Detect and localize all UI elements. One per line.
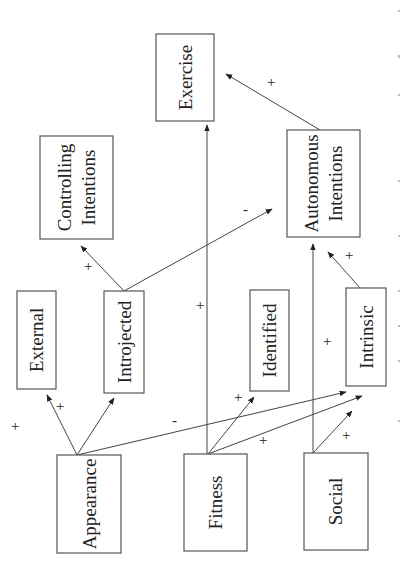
svg-text:Fitness: Fitness	[205, 476, 226, 530]
sign-appearance-external: +	[11, 418, 19, 434]
node-introjected: Introjected	[104, 291, 144, 393]
sign-social-autonomous: +	[323, 333, 331, 349]
sign-introjected-autonomous: -	[243, 201, 248, 217]
sign-appearance-intrinsic: -	[172, 412, 177, 428]
edge-introjected-to-autonomous	[124, 209, 272, 291]
sign-social-intrinsic: +	[342, 427, 350, 443]
sign-appearance-introjected: +	[56, 398, 64, 414]
svg-text:Social: Social	[325, 478, 346, 526]
svg-text:Introjected: Introjected	[114, 300, 135, 383]
svg-text:Intentions: Intentions	[78, 150, 99, 226]
node-intrinsic: Intrinsic	[346, 288, 386, 386]
edge-appearance-to-intrinsic	[77, 392, 346, 455]
svg-text:External: External	[26, 308, 47, 372]
sign-fitness-intrinsic: +	[259, 432, 267, 448]
motivation-path-diagram: + + - + + + + + - + + + Exercise Control…	[0, 0, 402, 581]
node-external: External	[17, 291, 56, 389]
sign-fitness-exercise: +	[196, 297, 204, 313]
node-exercise: Exercise	[156, 34, 214, 121]
sign-introjected-controlling: +	[84, 258, 92, 274]
node-identified: Identified	[250, 290, 289, 391]
sign-autonomous-exercise: +	[267, 74, 275, 90]
node-fitness: Fitness	[184, 454, 247, 551]
svg-text:Appearance: Appearance	[79, 459, 100, 550]
edge-appearance-to-introjected	[77, 398, 114, 455]
svg-text:Controlling: Controlling	[54, 143, 75, 231]
node-appearance: Appearance	[57, 455, 121, 553]
svg-text:Exercise: Exercise	[175, 45, 196, 110]
sign-intrinsic-autonomous: +	[345, 247, 353, 263]
sign-fitness-identified: +	[234, 389, 242, 405]
node-social: Social	[304, 453, 368, 550]
scan-artifacts	[398, 10, 400, 422]
svg-text:Intrinsic: Intrinsic	[356, 305, 377, 368]
node-controlling-intentions: Controlling Intentions	[40, 136, 113, 239]
svg-text:Autonomous: Autonomous	[301, 134, 322, 232]
node-autonomous-intentions: Autonomous Intentions	[287, 130, 360, 237]
svg-text:Identified: Identified	[259, 303, 280, 377]
svg-text:Intentions: Intentions	[325, 146, 346, 222]
